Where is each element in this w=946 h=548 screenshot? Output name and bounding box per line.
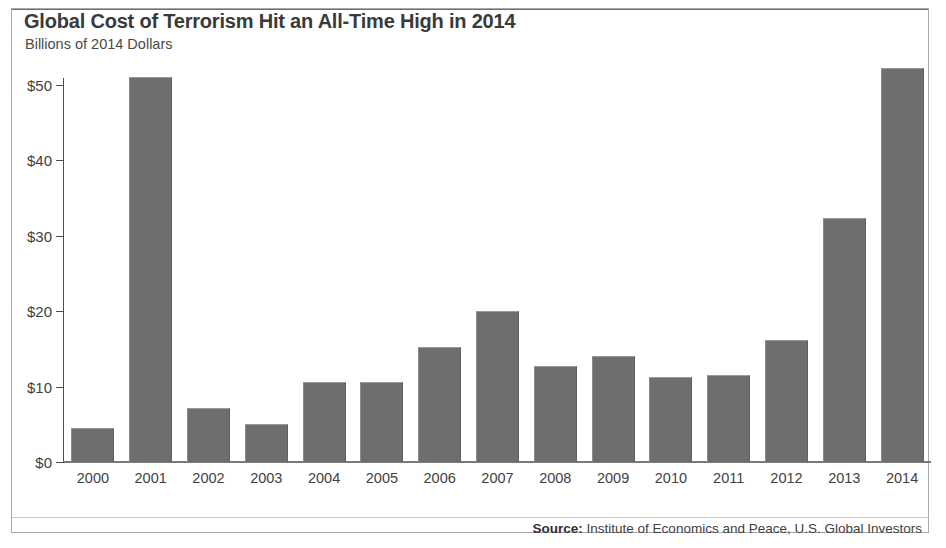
x-tick-label-2000: 2000 [77, 470, 109, 486]
bar-2008 [534, 366, 577, 462]
bar-2004 [303, 382, 346, 462]
x-tick-label-2013: 2013 [828, 470, 860, 486]
x-tick-label-2012: 2012 [770, 470, 802, 486]
y-tick-label: $10 [6, 378, 52, 395]
x-tick-label-2007: 2007 [481, 470, 513, 486]
y-tick-30 [56, 236, 64, 237]
y-tick-10 [56, 387, 64, 388]
bar-2006 [418, 347, 461, 462]
x-tick-label-2006: 2006 [424, 470, 456, 486]
bar-2000 [71, 428, 114, 462]
x-tick-label-2008: 2008 [539, 470, 571, 486]
bar-2005 [360, 382, 403, 462]
x-tick-label-2010: 2010 [655, 470, 687, 486]
y-tick-40 [56, 160, 64, 161]
x-tick-label-2009: 2009 [597, 470, 629, 486]
x-tick-label-2002: 2002 [192, 470, 224, 486]
y-tick-50 [56, 85, 64, 86]
y-tick-label: $0 [6, 454, 52, 471]
bar-2013 [823, 218, 866, 462]
y-tick-label: $50 [6, 77, 52, 94]
y-axis-line [63, 78, 64, 463]
source-note: Source: Institute of Economics and Peace… [533, 521, 922, 536]
bar-2007 [476, 311, 519, 462]
x-tick-label-2003: 2003 [250, 470, 282, 486]
source-divider [12, 517, 929, 518]
bar-2009 [592, 356, 635, 462]
x-tick-label-2011: 2011 [713, 470, 744, 486]
bar-2011 [707, 375, 750, 462]
x-tick-label-2001: 2001 [135, 470, 167, 486]
source-label: Source: [533, 521, 583, 536]
source-value: Institute of Economics and Peace, U.S. G… [583, 521, 922, 536]
y-tick-label: $40 [6, 152, 52, 169]
y-tick-label: $30 [6, 227, 52, 244]
y-tick-label: $20 [6, 303, 52, 320]
x-tick-label-2004: 2004 [308, 470, 340, 486]
x-tick-label-2005: 2005 [366, 470, 398, 486]
bar-2001 [129, 77, 172, 462]
y-axis-labels: $0$10$20$30$40$50 [0, 0, 52, 548]
plot-area: $0$10$20$30$40$50 2000200120022003200420… [0, 0, 946, 548]
bar-2014 [881, 68, 924, 462]
bar-2002 [187, 408, 230, 462]
bar-2010 [649, 377, 692, 462]
y-tick-20 [56, 311, 64, 312]
bar-2012 [765, 340, 808, 462]
y-tick-0 [56, 462, 64, 463]
x-tick-label-2014: 2014 [886, 470, 918, 486]
bar-2003 [245, 424, 288, 462]
